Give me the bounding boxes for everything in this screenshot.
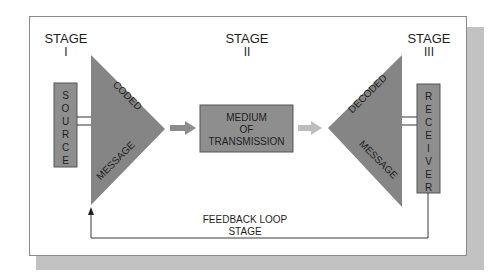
- stage-3-heading: STAGE III: [407, 31, 450, 59]
- svg-text:STAGE: STAGE: [228, 226, 261, 237]
- source-box: S O U R C E: [54, 83, 77, 167]
- svg-text:STAGE: STAGE: [225, 31, 268, 46]
- source-connector: [77, 117, 91, 125]
- decoded-message-triangle: DECODED MESSAGE: [328, 55, 402, 207]
- arrow-to-decoder: [298, 121, 322, 135]
- communication-diagram: STAGE I STAGE II STAGE III S O U R C E C…: [0, 0, 491, 275]
- feedback-loop: FEEDBACK LOOP STAGE: [88, 193, 428, 238]
- svg-text:I: I: [64, 45, 67, 59]
- svg-text:E: E: [62, 155, 69, 166]
- receiver-box: R E C E I V E R: [417, 84, 440, 193]
- coded-message-triangle: CODED MESSAGE: [91, 55, 165, 205]
- svg-text:E: E: [425, 130, 432, 141]
- stage-2-heading: STAGE II: [225, 31, 268, 59]
- svg-text:II: II: [244, 45, 251, 59]
- svg-text:III: III: [424, 45, 434, 59]
- arrow-to-medium: [170, 121, 196, 135]
- svg-text:E: E: [425, 104, 432, 115]
- svg-text:C: C: [62, 142, 69, 153]
- svg-text:R: R: [62, 129, 69, 140]
- svg-text:R: R: [425, 182, 432, 193]
- svg-text:S: S: [62, 90, 69, 101]
- svg-text:STAGE: STAGE: [44, 31, 87, 46]
- svg-text:MEDIUM: MEDIUM: [226, 112, 267, 123]
- svg-text:E: E: [425, 169, 432, 180]
- receiver-connector: [402, 117, 417, 125]
- svg-text:TRANSMISSION: TRANSMISSION: [208, 136, 284, 147]
- svg-text:U: U: [62, 116, 69, 127]
- svg-text:OF: OF: [240, 124, 254, 135]
- svg-text:C: C: [425, 117, 432, 128]
- svg-text:FEEDBACK LOOP: FEEDBACK LOOP: [203, 214, 288, 225]
- stage-1-heading: STAGE I: [44, 31, 87, 59]
- medium-box: MEDIUM OF TRANSMISSION: [200, 105, 293, 152]
- svg-text:O: O: [62, 103, 70, 114]
- svg-text:R: R: [425, 91, 432, 102]
- svg-text:I: I: [427, 143, 430, 154]
- svg-text:V: V: [425, 156, 432, 167]
- svg-text:STAGE: STAGE: [407, 31, 450, 46]
